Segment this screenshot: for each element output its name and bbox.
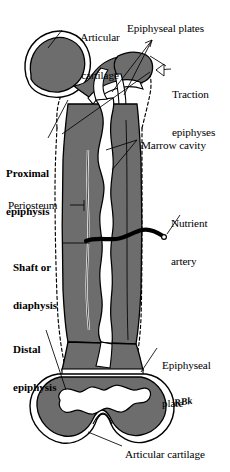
leader-traction-arrowhead xyxy=(156,64,164,76)
articular-cartilage-top-line2: cartilage xyxy=(64,69,136,82)
label-distal-epiphysis: Distal epiphysis xyxy=(13,318,56,419)
traction-epiphyses-line1: Traction xyxy=(172,88,215,101)
label-periosteum: Periosteum xyxy=(8,199,57,212)
label-nutrient-artery: Nutrient artery xyxy=(171,192,207,293)
nutrient-artery-tip xyxy=(162,235,167,240)
leader-epiphyseal-plate-distal xyxy=(141,348,157,372)
epiphyseal-plate-line1: Epiphyseal xyxy=(162,359,211,372)
label-articular-cartilage-bottom: Articular cartilage xyxy=(125,448,205,461)
distal-epiphysis-line2: epiphysis xyxy=(13,381,56,394)
long-bone-diagram: Articular cartilage Epiphyseal plates Tr… xyxy=(0,0,230,472)
shaft-or-diaphysis-line2: diaphysis xyxy=(13,299,57,312)
label-epiphyseal-plates: Epiphyseal plates xyxy=(127,22,204,35)
shaft-or-diaphysis-line1: Shaft or xyxy=(13,261,57,274)
label-articular-cartilage-top: Articular cartilage xyxy=(64,6,136,107)
label-proximal-epiphysis: Proximal epiphysis xyxy=(6,142,49,243)
label-marrow-cavity: Marrow cavity xyxy=(141,139,206,152)
leader-articular-cartilage-bottom xyxy=(88,432,122,446)
nutrient-artery-line1: Nutrient xyxy=(171,217,207,230)
articular-cartilage-top-line1: Articular xyxy=(64,31,136,44)
proximal-epiphysis-line1: Proximal xyxy=(6,167,49,180)
label-epiphyseal-plate-distal: Epiphyseal plate xyxy=(162,334,211,435)
traction-epiphyses-line2: epiphyses xyxy=(172,126,215,139)
nutrient-artery-line2: artery xyxy=(171,255,207,268)
distal-epiphysis-line1: Distal xyxy=(13,343,56,356)
